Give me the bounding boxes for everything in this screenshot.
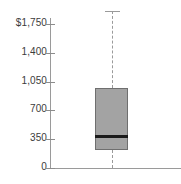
- median-line: [95, 135, 128, 138]
- upper-whisker-line: [112, 11, 113, 88]
- box-plot-group: [0, 0, 181, 184]
- upper-whisker-cap: [105, 11, 120, 12]
- lower-whisker-line: [112, 150, 113, 168]
- box-plot-chart: 03507001,0501,400$1,750: [0, 0, 181, 184]
- box-rect: [95, 88, 128, 150]
